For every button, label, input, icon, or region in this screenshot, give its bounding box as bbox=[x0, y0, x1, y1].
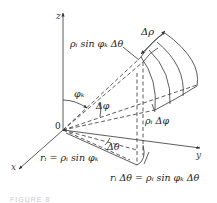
bottom-arc-label: rᵢ Δθ = ρᵢ sin φₖ Δθ bbox=[110, 173, 199, 183]
phi-k-label: φₖ bbox=[74, 89, 84, 99]
r-i-equation-label: rᵢ = ρᵢ sin φₖ bbox=[40, 153, 98, 163]
top-arc-label: ρᵢ sin φₖ Δθ bbox=[70, 39, 123, 49]
rho-delta-phi-label: ρᵢ Δφ bbox=[145, 116, 169, 126]
y-axis-label: y bbox=[196, 151, 201, 160]
z-axis-label: z bbox=[56, 12, 61, 21]
origin-label: 0 bbox=[55, 122, 61, 131]
delta-phi-label: Δφ bbox=[96, 101, 110, 111]
delta-theta-label: Δθ bbox=[107, 142, 120, 152]
delta-rho-label: Δρ bbox=[141, 27, 154, 37]
x-axis bbox=[19, 130, 63, 169]
figure-caption: FIGURE 8 bbox=[10, 196, 50, 203]
x-axis-label: x bbox=[11, 163, 16, 172]
